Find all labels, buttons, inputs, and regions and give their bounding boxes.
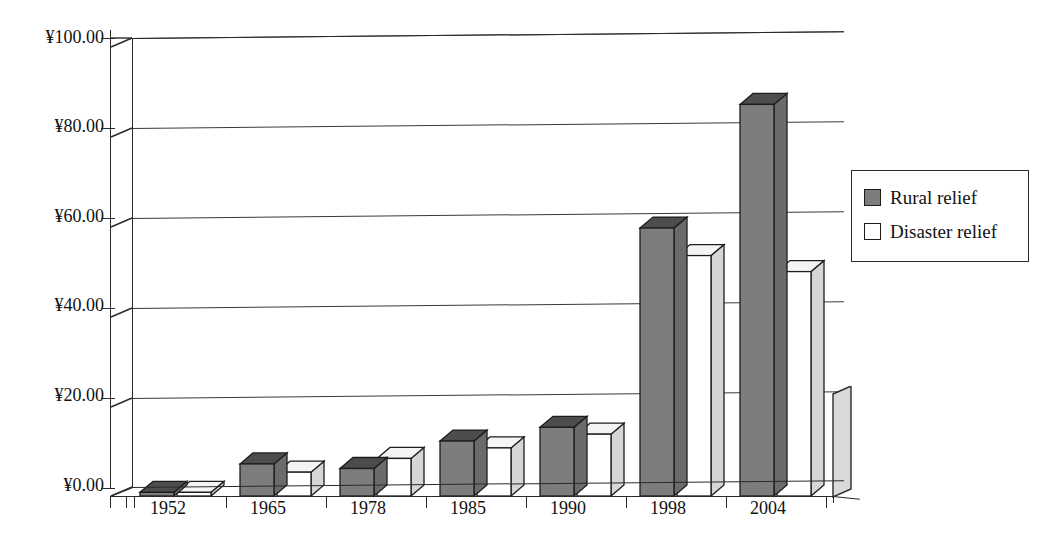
y-tick-label-40: ¥40.00 bbox=[4, 296, 104, 314]
x-tick-label-1978: 1978 bbox=[328, 498, 408, 518]
bars-svg bbox=[110, 30, 840, 516]
x-tick-label-1990: 1990 bbox=[528, 498, 608, 518]
y-tick-label-60: ¥60.00 bbox=[4, 207, 104, 225]
x-tick-5 bbox=[626, 497, 627, 508]
bar-1990-rural-relief bbox=[540, 416, 587, 496]
x-tick-0 bbox=[126, 497, 127, 508]
x-axis-line bbox=[110, 496, 833, 497]
x-tick-3 bbox=[426, 497, 427, 508]
y-tick-label-80: ¥80.00 bbox=[4, 117, 104, 135]
y-tick-label-100: ¥100.00 bbox=[4, 28, 104, 46]
x-tick-label-2004: 2004 bbox=[728, 498, 808, 518]
bar-1985-rural-relief bbox=[440, 430, 487, 496]
legend-item-disaster-relief: Disaster relief bbox=[864, 214, 1028, 248]
x-tick-1 bbox=[226, 497, 227, 508]
bar-1965-rural-relief bbox=[240, 453, 287, 496]
y-tick-label-20: ¥20.00 bbox=[4, 386, 104, 404]
legend-label-rural-relief: Rural relief bbox=[890, 188, 977, 207]
x-tick-label-1952: 1952 bbox=[128, 498, 208, 518]
x-tick-2 bbox=[326, 497, 327, 508]
bar-2004-rural-relief bbox=[740, 93, 787, 496]
floor-left-edge bbox=[110, 487, 134, 497]
bar-1998-rural-relief bbox=[640, 217, 687, 496]
plot-area bbox=[110, 30, 840, 500]
bar-chart: ¥100.00 ¥80.00 ¥60.00 ¥40.00 ¥20.00 ¥0.0… bbox=[0, 0, 1055, 557]
plot-right-wall bbox=[833, 393, 834, 503]
x-tick-6 bbox=[726, 497, 727, 508]
x-tick-label-1998: 1998 bbox=[628, 498, 708, 518]
x-tick-7 bbox=[826, 497, 827, 508]
x-tick-label-1985: 1985 bbox=[428, 498, 508, 518]
bar-1978-rural-relief bbox=[340, 458, 387, 496]
x-tick-4 bbox=[526, 497, 527, 508]
legend-item-rural-relief: Rural relief bbox=[864, 180, 1028, 214]
x-tick-label-1965: 1965 bbox=[228, 498, 308, 518]
y-axis: ¥100.00 ¥80.00 ¥60.00 ¥40.00 ¥20.00 ¥0.0… bbox=[0, 0, 104, 557]
legend-swatch-rural-relief bbox=[864, 189, 881, 206]
legend-label-disaster-relief: Disaster relief bbox=[890, 222, 997, 241]
legend-swatch-disaster-relief bbox=[864, 223, 881, 240]
bars-layer bbox=[110, 30, 840, 496]
y-tick-label-0: ¥0.00 bbox=[4, 476, 104, 494]
legend: Rural relief Disaster relief bbox=[851, 170, 1029, 262]
